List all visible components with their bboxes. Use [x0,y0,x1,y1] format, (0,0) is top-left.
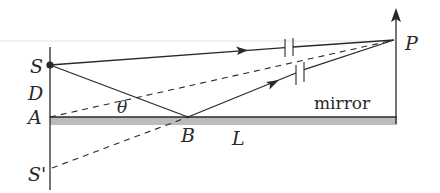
reflected-ray-segment-1 [188,73,296,117]
label-d: D [27,82,43,104]
label-theta: θ [117,97,127,117]
source-point [46,61,53,68]
lloyds-mirror-diagram: S D A S' θ B L P mirror [0,0,440,193]
label-p: P [404,32,419,54]
mirror-surface [50,117,397,125]
reflection-point-b [187,116,190,119]
label-mirror: mirror [314,93,371,113]
label-s: S [30,55,43,77]
label-s-prime: S' [28,163,46,185]
direct-ray-segment-1 [50,48,285,65]
label-b: B [180,124,195,146]
label-a: A [26,106,42,128]
reflected-ray-segment-2 [304,40,394,70]
label-l: L [231,127,245,149]
